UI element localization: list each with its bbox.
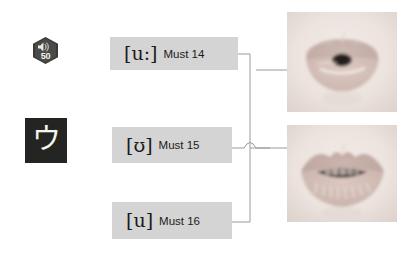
label-box-must-14[interactable]: [u:] Must 14 [110, 37, 238, 70]
audio-badge-number: 50 [33, 52, 58, 61]
lips-image-teeth [287, 125, 397, 222]
label-caption: Must 15 [159, 139, 200, 151]
connector-from-must-15-hop [232, 143, 287, 149]
label-caption: Must 14 [163, 48, 204, 60]
label-box-must-15[interactable]: [ʊ] Must 15 [112, 127, 232, 163]
lips-teeth-illustration [287, 125, 397, 222]
kana-character: ウ [25, 118, 67, 163]
audio-badge[interactable]: 50 [33, 37, 58, 64]
label-caption: Must 16 [159, 215, 200, 227]
lips-rounded-illustration [287, 12, 397, 112]
kana-tile: ウ [25, 118, 67, 163]
ipa-symbol: [u] [126, 211, 153, 230]
label-box-must-16[interactable]: [u] Must 16 [112, 202, 232, 239]
lips-image-rounded [287, 12, 397, 112]
ipa-symbol: [u:] [124, 44, 157, 63]
diagram-canvas: 50 ウ [u:] Must 14 [ʊ] Must 15 [u] Must 1… [0, 0, 420, 267]
ipa-symbol: [ʊ] [126, 136, 153, 155]
connector-trunk-from-must-14 [238, 54, 250, 222]
